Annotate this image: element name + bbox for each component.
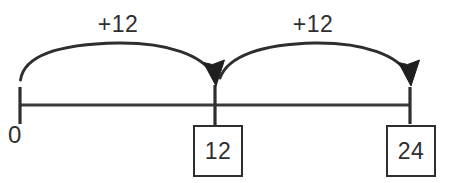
hop-arc-2 xyxy=(220,43,408,78)
hop-label-2: +12 xyxy=(273,13,353,36)
hop-arrowhead-2 xyxy=(399,60,420,86)
value-box-12-text: 12 xyxy=(205,140,232,163)
value-box-12: 12 xyxy=(193,125,243,177)
number-line-diagram: +12 +12 0 12 24 xyxy=(0,0,449,183)
value-box-24-text: 24 xyxy=(398,140,425,163)
hop-label-1: +12 xyxy=(78,13,158,36)
value-box-24: 24 xyxy=(386,125,436,177)
origin-label: 0 xyxy=(8,123,21,147)
hop-arc-1 xyxy=(21,43,214,80)
